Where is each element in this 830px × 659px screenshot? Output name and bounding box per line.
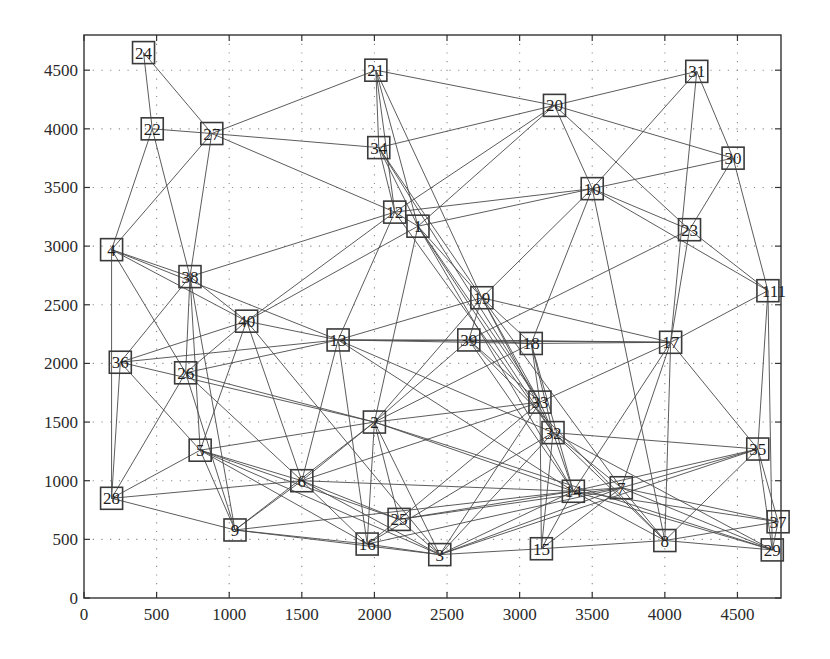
node-35: 35 (747, 438, 769, 460)
edge-18-14 (531, 343, 573, 491)
node-label: 6 (298, 472, 307, 491)
edge-33-2 (374, 402, 540, 422)
node-7: 7 (610, 477, 632, 499)
node-label: 22 (144, 120, 161, 139)
node-label: 30 (725, 149, 742, 168)
node-label: 13 (330, 331, 347, 350)
edge-18-17 (531, 342, 670, 343)
edge-8-37 (665, 522, 778, 541)
edge-33-3 (440, 402, 540, 554)
node-label: 33 (531, 393, 548, 412)
edge-4-13 (112, 250, 339, 340)
network-plot: 0500100015002000250030003500400045000500… (0, 0, 830, 659)
node-label: 5 (196, 441, 205, 460)
edge-34-33 (379, 148, 540, 403)
node-label: 36 (112, 353, 129, 372)
edge-34-20 (379, 105, 555, 147)
edge-18-32 (531, 343, 553, 432)
node-1: 1 (407, 215, 429, 237)
edge-39-14 (469, 340, 574, 491)
node-34: 34 (368, 137, 390, 159)
node-37: 37 (767, 511, 789, 533)
edge-12-13 (338, 212, 395, 340)
node-25: 25 (388, 508, 410, 530)
edge-1-33 (418, 226, 540, 402)
edge-111-17 (671, 291, 768, 343)
edge-20-30 (554, 105, 733, 158)
node-21: 21 (365, 59, 387, 81)
edge-20-31 (554, 71, 696, 105)
node-40: 40 (236, 310, 258, 332)
node-38: 38 (179, 266, 201, 288)
node-label: 31 (688, 62, 705, 81)
edge-3-14 (440, 491, 574, 554)
edge-20-10 (554, 105, 592, 188)
node-4: 4 (101, 239, 123, 261)
y-tick-label: 2500 (44, 296, 78, 315)
node-label: 26 (177, 364, 194, 383)
x-tick-label: 1000 (212, 605, 246, 624)
node-label: 20 (546, 96, 563, 115)
node-label: 10 (584, 180, 601, 199)
node-label: 28 (103, 489, 120, 508)
edge-7-35 (621, 449, 757, 488)
node-16: 16 (356, 533, 378, 555)
edge-26-28 (112, 373, 186, 499)
node-14: 14 (562, 480, 584, 502)
edge-14-37 (573, 491, 778, 521)
node-6: 6 (291, 470, 313, 492)
node-label: 39 (460, 331, 477, 350)
edge-30-111 (733, 158, 768, 291)
node-10: 10 (581, 178, 603, 200)
edge-1-2 (374, 226, 418, 422)
x-tick-label: 0 (80, 605, 89, 624)
edge-6-14 (302, 481, 574, 492)
node-8: 8 (654, 530, 676, 552)
edge-35-29 (758, 449, 773, 550)
edge-32-35 (553, 433, 758, 449)
y-tick-label: 0 (70, 589, 79, 608)
node-12: 12 (384, 201, 406, 223)
node-22: 22 (141, 118, 163, 140)
edge-27-21 (212, 70, 376, 133)
x-tick-label: 3500 (575, 605, 609, 624)
edge-14-35 (573, 449, 757, 491)
node-label: 18 (523, 334, 540, 353)
edge-10-1 (418, 189, 592, 227)
y-tick-label: 4000 (44, 120, 78, 139)
node-23: 23 (679, 219, 701, 241)
edge-36-2 (120, 362, 374, 422)
node-label: 32 (545, 424, 562, 443)
edge-6-28 (112, 481, 302, 499)
edge-31-30 (697, 71, 733, 158)
edge-111-35 (758, 291, 768, 449)
node-label: 1 (414, 217, 423, 236)
node-label: 21 (367, 61, 384, 80)
x-tick-label: 500 (144, 605, 170, 624)
node-label: 15 (533, 540, 550, 559)
x-tick-label: 2500 (430, 605, 464, 624)
edge-15-8 (541, 541, 664, 549)
node-label: 17 (662, 333, 680, 352)
edge-2-5 (200, 422, 374, 450)
y-tick-label: 1000 (44, 472, 78, 491)
edge-33-25 (399, 402, 540, 519)
y-tick-label: 3500 (44, 178, 78, 197)
edge-10-18 (531, 189, 592, 344)
node-label: 37 (770, 513, 788, 532)
x-tick-label: 4000 (648, 605, 682, 624)
edge-12-40 (247, 212, 395, 321)
edge-38-26 (186, 277, 190, 373)
edge-26-13 (186, 340, 338, 373)
node-32: 32 (542, 422, 564, 444)
node-label: 23 (681, 221, 698, 240)
node-label: 7 (617, 479, 626, 498)
edge-36-13 (120, 340, 338, 362)
edge-1-40 (247, 226, 418, 321)
edge-18-2 (374, 343, 531, 422)
node-33: 33 (529, 391, 551, 413)
node-2: 2 (363, 411, 385, 433)
edge-12-38 (190, 212, 395, 277)
node-20: 20 (543, 94, 565, 116)
node-label: 12 (386, 203, 403, 222)
